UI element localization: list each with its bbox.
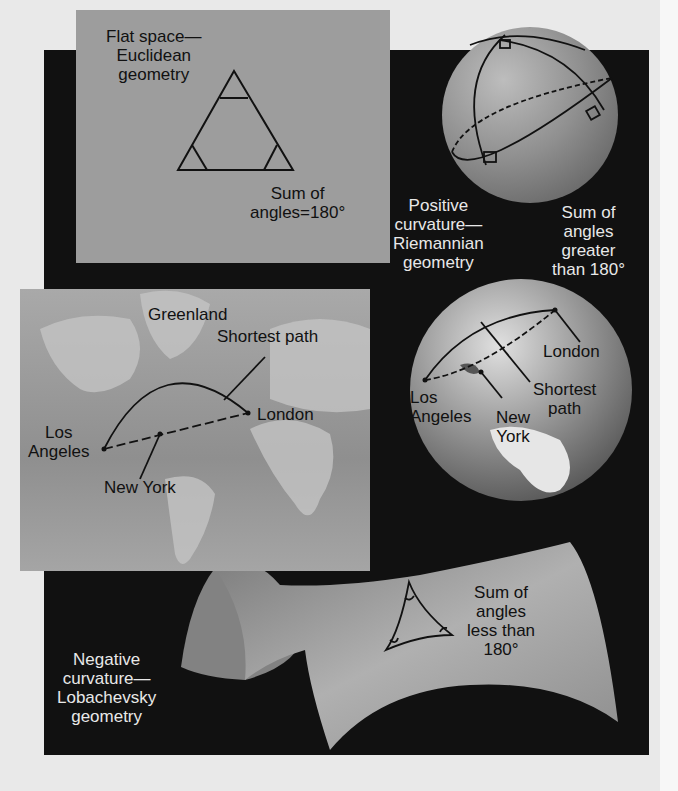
globe-new-york-line2: York <box>496 427 530 446</box>
positive-title-line3: Riemannian <box>393 234 484 253</box>
negative-sum-line1: Sum of <box>467 583 535 602</box>
globe-los-angeles-line1: Los <box>410 388 471 407</box>
positive-title-line1: Positive <box>393 196 484 215</box>
flat-sum-line1: Sum of <box>250 184 345 203</box>
negative-title-line1: Negative <box>57 650 156 669</box>
flat-space-panel: Flat space— Euclidean geometry Sum of an… <box>76 10 390 263</box>
globe-los-angeles-line2: Angeles <box>410 407 471 426</box>
flat-title-line1: Flat space— <box>106 27 201 46</box>
flat-title-line3: geometry <box>106 65 201 84</box>
positive-sum-line2: angles <box>552 222 625 241</box>
positive-sum-label: Sum of angles greater than 180° <box>552 203 625 279</box>
map-los-angeles-label: Los Angeles <box>28 423 89 461</box>
globe-shortest-path-label: Shortest path <box>533 380 596 418</box>
negative-title-line2: curvature— <box>57 669 156 688</box>
flat-title: Flat space— Euclidean geometry <box>106 27 201 84</box>
positive-sum-line3: greater <box>552 241 625 260</box>
positive-title-line2: curvature— <box>393 215 484 234</box>
map-shortest-path-label: Shortest path <box>217 327 318 346</box>
globe-london-label: London <box>543 342 600 361</box>
flat-sum-line2: angles=180° <box>250 203 345 222</box>
negative-sum-line3: less than <box>467 621 535 640</box>
negative-title: Negative curvature— Lobachevsky geometry <box>57 650 156 726</box>
positive-sum-line4: than 180° <box>552 260 625 279</box>
negative-title-line4: geometry <box>57 707 156 726</box>
map-los-angeles-line2: Angeles <box>28 442 89 461</box>
globe-new-york-label: New York <box>496 408 530 446</box>
world-map-panel: Greenland Shortest path London Los Angel… <box>20 289 370 571</box>
flat-sum-label: Sum of angles=180° <box>250 184 345 222</box>
negative-sum-line2: angles <box>467 602 535 621</box>
negative-sum-label: Sum of angles less than 180° <box>467 583 535 659</box>
page-margin <box>660 0 678 791</box>
positive-title-line4: geometry <box>393 253 484 272</box>
continents <box>40 291 370 564</box>
map-los-angeles-line1: Los <box>28 423 89 442</box>
flat-title-line2: Euclidean <box>106 46 201 65</box>
globe-shortest-line1: Shortest <box>533 380 596 399</box>
greenland-label: Greenland <box>148 305 227 324</box>
globe-los-angeles-label: Los Angeles <box>410 388 471 426</box>
globe-new-york-line1: New <box>496 408 530 427</box>
negative-title-line3: Lobachevsky <box>57 688 156 707</box>
positive-title: Positive curvature— Riemannian geometry <box>393 196 484 272</box>
negative-sum-line4: 180° <box>467 640 535 659</box>
positive-sum-line1: Sum of <box>552 203 625 222</box>
map-london-label: London <box>257 405 314 424</box>
globe-shortest-line2: path <box>533 399 596 418</box>
map-new-york-label: New York <box>104 478 176 497</box>
